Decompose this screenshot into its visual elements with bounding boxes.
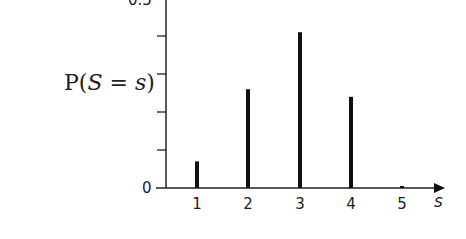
x-tick-label: 5 <box>397 195 407 213</box>
stem-bar-s3 <box>298 32 302 188</box>
stem-bar-s2 <box>246 89 250 188</box>
x-tick-label: 4 <box>346 195 356 213</box>
x-tick-labels: 12345 <box>192 195 407 213</box>
stems-group <box>195 32 404 188</box>
y-tick-label-top: 0.5 <box>128 0 152 9</box>
x-tick-label: 3 <box>295 195 305 213</box>
x-tick-label: 1 <box>192 195 202 213</box>
y-axis-label: P(S = s) <box>64 70 155 95</box>
x-axis-label: s <box>434 191 443 211</box>
x-tick-label: 2 <box>243 195 253 213</box>
stem-bar-s4 <box>349 97 353 188</box>
stem-bar-s5 <box>400 186 404 188</box>
probability-stem-chart: P(S = s) 0.5 0 12345 s <box>0 0 466 239</box>
y-tick-label-zero: 0 <box>142 179 152 197</box>
stem-bar-s1 <box>195 161 199 188</box>
y-axis-ticks <box>157 0 166 150</box>
